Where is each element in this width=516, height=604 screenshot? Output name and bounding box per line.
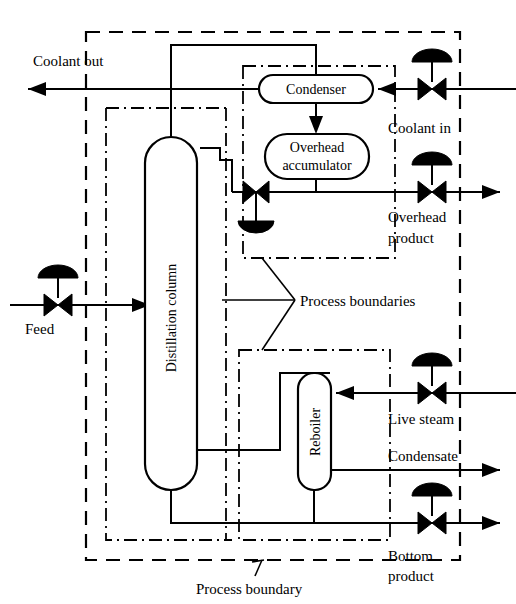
label-overhead-product-line2: product <box>388 230 435 246</box>
arrow-live-steam <box>336 386 354 400</box>
arrow-condenser-to-accumulator <box>309 116 323 134</box>
valve-coolant-in-actuator-icon <box>412 49 452 62</box>
label-condensate: Condensate <box>388 448 458 464</box>
arrow-overhead-product <box>482 185 500 199</box>
label-process-boundaries: Process boundaries <box>300 293 416 309</box>
valve-coolant-in[interactable] <box>412 49 452 100</box>
label-overhead-product-line1: Overhead <box>388 209 447 225</box>
label-bottom-product-line1: Bottom <box>388 548 433 564</box>
valve-feed-body2-icon <box>58 294 72 316</box>
valve-coolant-in-body2-icon <box>432 78 446 100</box>
valve-live-steam-body2-icon <box>432 382 446 404</box>
valve-live-steam[interactable] <box>412 353 452 404</box>
label-coolant-in: Coolant in <box>388 120 451 136</box>
leader-process-boundaries-upper <box>262 258 295 300</box>
label-process-boundary: Process boundary <box>196 581 303 597</box>
valve-reflux-body-icon <box>243 181 256 203</box>
process-flow-diagram: Condenser Overhead accumulator Distillat… <box>0 0 516 604</box>
equipment-condenser-label: Condenser <box>286 82 346 97</box>
pipe-reflux <box>200 148 232 192</box>
leader-process-boundary-bottom <box>255 560 262 576</box>
valve-bottom-product[interactable] <box>412 483 452 534</box>
arrow-coolant-in <box>378 82 396 96</box>
arrow-bottom-product <box>482 516 500 530</box>
valve-reflux-actuator-icon <box>238 221 274 233</box>
equipment-overhead-accumulator-label-line1: Overhead <box>290 140 344 155</box>
valve-coolant-in-body-icon <box>418 78 432 100</box>
pipe-column-bottoms <box>171 490 430 523</box>
label-coolant-out: Coolant out <box>33 53 104 69</box>
valve-live-steam-body-icon <box>418 382 432 404</box>
valve-overhead-product-body-icon <box>418 181 432 203</box>
valve-bottom-product-body2-icon <box>432 512 446 534</box>
label-bottom-product-line2: product <box>388 568 435 584</box>
equipment-distillation-column-label: Distillation column <box>164 264 179 373</box>
equipment-overhead-accumulator-label-line2: accumulator <box>282 158 352 173</box>
valve-bottom-product-actuator-icon <box>412 483 452 496</box>
valve-feed-actuator-icon <box>38 265 78 278</box>
pfd-canvas: Condenser Overhead accumulator Distillat… <box>0 0 516 604</box>
valve-feed-body-icon <box>44 294 58 316</box>
equipment-reboiler-label: Reboiler <box>308 408 323 457</box>
valve-feed[interactable] <box>38 265 78 316</box>
valve-overhead-product[interactable] <box>412 152 452 203</box>
valve-overhead-product-body2-icon <box>432 181 446 203</box>
valve-live-steam-actuator-icon <box>412 353 452 366</box>
valve-reflux[interactable] <box>238 181 274 233</box>
leader-process-boundaries-lower <box>262 300 295 350</box>
arrow-condensate <box>482 463 500 477</box>
valve-reflux-body2-icon <box>256 181 269 203</box>
valve-bottom-product-body-icon <box>418 512 432 534</box>
label-live-steam: Live steam <box>388 411 455 427</box>
arrow-coolant-out <box>28 82 46 96</box>
label-feed: Feed <box>25 321 55 337</box>
valve-overhead-product-actuator-icon <box>412 152 452 165</box>
